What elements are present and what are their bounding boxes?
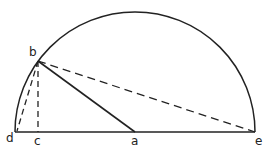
label-c: c <box>34 134 41 148</box>
label-e: e <box>255 134 262 148</box>
semicircle-diagram: b d c a e <box>0 0 273 149</box>
dashed-be <box>38 61 255 132</box>
semicircle-arc <box>15 12 255 132</box>
label-b: b <box>29 45 37 59</box>
label-d: d <box>6 131 14 145</box>
radius-ba <box>38 61 135 132</box>
label-a: a <box>131 134 138 148</box>
